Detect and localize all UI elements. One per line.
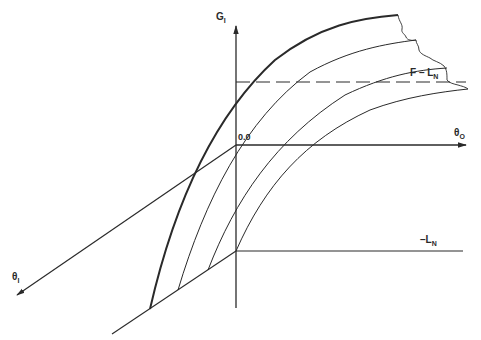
diagram-canvas bbox=[0, 0, 481, 340]
origin-label: 0.0 bbox=[238, 133, 251, 142]
theta-i-axis-label: θI bbox=[12, 272, 19, 284]
minus-ln-label-main: –L bbox=[420, 234, 432, 245]
f-ln-label-main: F – L bbox=[410, 67, 433, 78]
minus-ln-label: –LN bbox=[420, 235, 437, 247]
gi-label-main: G bbox=[216, 11, 224, 22]
theta-i-label-sub: I bbox=[17, 277, 19, 284]
curve-1-outer bbox=[150, 15, 398, 309]
lower-oblique-line bbox=[112, 251, 236, 334]
f-ln-label-sub: N bbox=[433, 73, 438, 80]
curve-2 bbox=[178, 40, 416, 290]
theta-o-label-sub: O bbox=[459, 133, 464, 140]
minus-ln-label-sub: N bbox=[432, 240, 437, 247]
gi-axis-label: GI bbox=[216, 12, 226, 24]
curve-4 bbox=[236, 89, 468, 251]
gi-label-sub: I bbox=[224, 17, 226, 24]
theta-o-axis-label: θO bbox=[454, 128, 465, 140]
f-minus-ln-label: F – LN bbox=[410, 68, 438, 80]
